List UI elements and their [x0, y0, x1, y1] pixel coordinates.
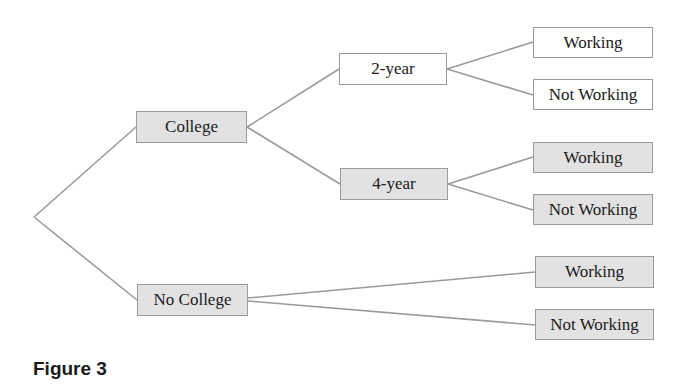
node-label: No College [154, 290, 232, 310]
node-no-college: No College [137, 284, 248, 316]
edge-college-2year [247, 69, 339, 127]
edge-nocollege-not-working [248, 301, 535, 325]
node-label: Working [563, 148, 622, 168]
node-label: 4-year [372, 174, 415, 194]
edge-college-4year [247, 127, 340, 184]
node-4year-not-working: Not Working [533, 194, 653, 225]
edge-root-no-college [34, 217, 137, 300]
node-2year-not-working: Not Working [533, 79, 653, 110]
edge-nocollege-working [248, 272, 535, 298]
node-label: Not Working [550, 315, 639, 335]
node-label: Working [563, 33, 622, 53]
node-label: College [165, 117, 218, 137]
edge-2year-working [447, 42, 533, 69]
node-label: Working [565, 262, 624, 282]
node-2year-working: Working [533, 27, 653, 58]
figure-caption: Figure 3 [33, 358, 107, 380]
node-nocollege-not-working: Not Working [535, 309, 654, 340]
node-4-year: 4-year [340, 168, 448, 200]
node-nocollege-working: Working [535, 256, 654, 288]
node-4year-working: Working [533, 142, 653, 173]
node-label: Not Working [549, 200, 638, 220]
edge-4year-working [448, 157, 533, 184]
node-label: Not Working [549, 85, 638, 105]
edge-4year-not-working [448, 184, 533, 210]
node-label: 2-year [371, 59, 414, 79]
node-2-year: 2-year [339, 53, 447, 85]
node-college: College [136, 111, 247, 143]
edge-2year-not-working [447, 69, 533, 95]
edge-root-college [34, 127, 136, 217]
